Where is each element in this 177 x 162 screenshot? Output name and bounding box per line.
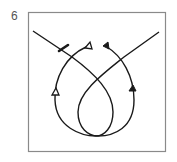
curve-a: [33, 31, 113, 136]
loop-diagram: [0, 0, 177, 162]
filled-arrow-right-icon: [129, 85, 136, 91]
open-arrow-top-icon: [85, 42, 92, 49]
diagram-frame: [29, 13, 166, 152]
open-arrow-left-icon: [52, 88, 59, 95]
filled-arrow-top-icon: [103, 42, 109, 49]
bar-marker-icon: [59, 45, 68, 51]
